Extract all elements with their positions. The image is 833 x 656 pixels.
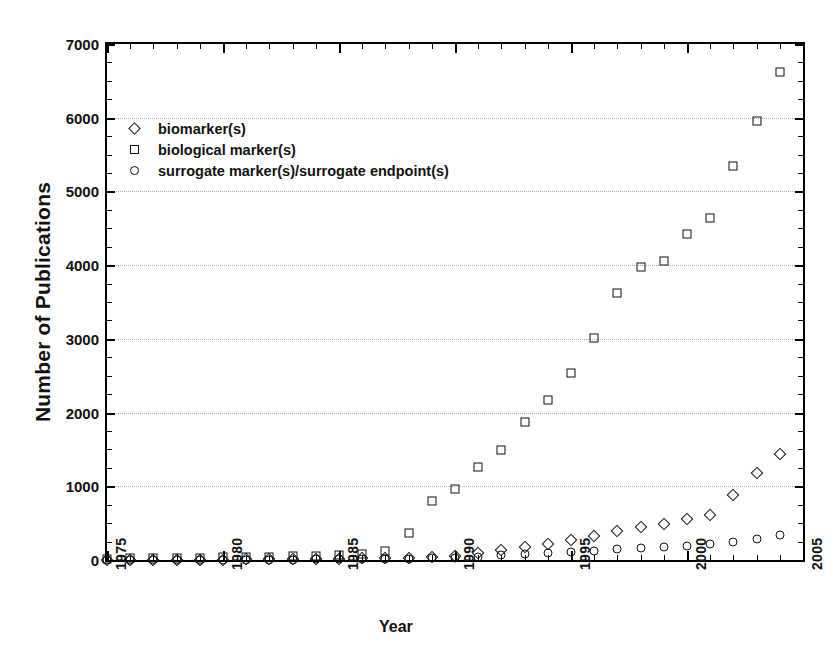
data-point-diamond: [611, 524, 624, 537]
y-axis-tick: [795, 486, 803, 488]
y-axis-minor-tick: [107, 320, 112, 321]
y-axis-tick: [107, 265, 115, 267]
x-axis-tick: [803, 44, 805, 53]
y-axis-minor-tick: [798, 136, 803, 137]
x-axis-tick: [455, 44, 457, 53]
x-axis-tick: [803, 551, 805, 560]
data-point-diamond: [634, 521, 647, 534]
y-axis-minor-tick: [798, 284, 803, 285]
data-point-circle: [451, 553, 460, 562]
data-point-square: [659, 257, 668, 266]
y-axis-tick: [107, 339, 115, 341]
x-axis-tick: [571, 44, 573, 53]
square-marker-icon: [130, 145, 156, 154]
legend-item-biological-markers: biological marker(s): [130, 139, 449, 160]
y-axis-minor-tick: [107, 228, 112, 229]
y-axis-tick-label: 0: [39, 552, 99, 569]
y-axis-minor-tick: [798, 99, 803, 100]
data-point-diamond: [750, 466, 763, 479]
x-axis-minor-tick: [293, 44, 294, 49]
x-axis-minor-tick: [780, 555, 781, 560]
data-point-circle: [497, 551, 506, 560]
y-axis-minor-tick: [107, 99, 112, 100]
data-point-square: [497, 445, 506, 454]
x-axis-minor-tick: [710, 555, 711, 560]
data-point-square: [683, 230, 692, 239]
data-point-circle: [103, 555, 112, 564]
data-point-circle: [288, 555, 297, 564]
data-point-square: [404, 529, 413, 538]
y-axis-minor-tick: [107, 468, 112, 469]
x-axis-minor-tick: [594, 555, 595, 560]
data-point-circle: [752, 534, 761, 543]
y-axis-minor-tick: [798, 247, 803, 248]
x-axis-minor-tick: [548, 44, 549, 49]
x-axis-minor-tick: [246, 44, 247, 49]
data-point-circle: [683, 541, 692, 550]
y-axis-minor-tick: [107, 394, 112, 395]
legend-label: surrogate marker(s)/surrogate endpoint(s…: [156, 163, 449, 179]
y-axis-minor-tick: [107, 431, 112, 432]
y-axis-minor-tick: [798, 62, 803, 63]
x-axis-tick-label: 2005: [809, 538, 825, 570]
x-axis-minor-tick: [316, 44, 317, 49]
data-point-circle: [636, 544, 645, 553]
y-axis-minor-tick: [107, 173, 112, 174]
gridline-horizontal: [107, 339, 803, 340]
x-axis-tick: [339, 44, 341, 53]
data-point-diamond: [565, 534, 578, 547]
y-axis-minor-tick: [798, 81, 803, 82]
data-point-square: [729, 161, 738, 170]
data-point-square: [775, 68, 784, 77]
y-axis-tick-label: 1000: [39, 478, 99, 495]
x-axis-tick: [107, 44, 109, 53]
data-point-square: [706, 213, 715, 222]
x-axis-minor-tick: [664, 44, 665, 49]
y-axis-minor-tick: [107, 284, 112, 285]
y-axis-minor-tick: [107, 247, 112, 248]
x-axis-minor-tick: [525, 44, 526, 49]
y-axis-minor-tick: [798, 523, 803, 524]
y-axis-tick: [795, 413, 803, 415]
y-axis-minor-tick: [107, 523, 112, 524]
data-point-square: [427, 497, 436, 506]
y-axis-minor-tick: [107, 136, 112, 137]
data-point-circle: [311, 555, 320, 564]
data-point-circle: [729, 537, 738, 546]
y-axis-minor-tick: [107, 155, 112, 156]
x-axis-minor-tick: [501, 44, 502, 49]
y-axis-minor-tick: [107, 376, 112, 377]
data-point-square: [451, 485, 460, 494]
data-point-circle: [659, 543, 668, 552]
y-axis-minor-tick: [798, 505, 803, 506]
data-point-circle: [404, 554, 413, 563]
data-point-diamond: [727, 489, 740, 502]
x-axis-tick: [687, 44, 689, 53]
x-axis-minor-tick: [780, 44, 781, 49]
y-axis-minor-tick: [798, 468, 803, 469]
x-axis-minor-tick: [409, 44, 410, 49]
x-axis-minor-tick: [269, 44, 270, 49]
y-axis-tick-label: 2000: [39, 404, 99, 421]
chart-legend: biomarker(s) biological marker(s) surrog…: [130, 118, 449, 181]
y-axis-minor-tick: [107, 81, 112, 82]
publications-chart-figure: Number of Publications 01000200030004000…: [0, 0, 833, 656]
data-point-square: [520, 418, 529, 427]
data-point-circle: [335, 555, 344, 564]
x-axis-minor-tick: [432, 44, 433, 49]
y-axis-minor-tick: [798, 302, 803, 303]
data-point-square: [636, 263, 645, 272]
data-point-diamond: [657, 518, 670, 531]
x-axis-minor-tick: [710, 44, 711, 49]
data-point-circle: [195, 555, 204, 564]
y-axis-minor-tick: [798, 542, 803, 543]
y-axis-tick: [107, 191, 115, 193]
gridline-horizontal: [107, 265, 803, 266]
gridline-horizontal: [107, 413, 803, 414]
x-axis-title: Year: [379, 618, 413, 636]
y-axis-tick: [107, 413, 115, 415]
y-axis-tick-label: 5000: [39, 183, 99, 200]
y-axis-tick-label: 3000: [39, 330, 99, 347]
y-axis-tick-label: 7000: [39, 36, 99, 53]
y-axis-tick-label: 4000: [39, 257, 99, 274]
